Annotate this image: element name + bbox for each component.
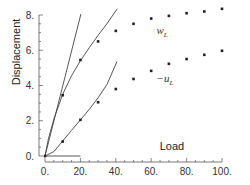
data-point-minus-u-l: [203, 54, 206, 57]
series-label-w-l: wL: [157, 24, 168, 39]
data-point-w-l: [79, 59, 82, 62]
displacement-load-chart: 0.20.40.60.80.100.0.2.4.6.8. wL−uL Load …: [0, 0, 250, 185]
data-point-w-l: [203, 10, 206, 13]
data-point-minus-u-l: [61, 140, 64, 143]
data-point-w-l: [132, 23, 135, 26]
y-axis-title: Displacement: [10, 19, 22, 86]
series-label-subscript: L: [168, 79, 173, 87]
x-tick-label: 0.: [41, 166, 49, 177]
x-tick-label: 100.: [212, 166, 231, 177]
data-point-minus-u-l: [221, 49, 224, 52]
origin-point: [44, 155, 47, 158]
data-points: [44, 8, 224, 158]
data-point-minus-u-l: [168, 63, 171, 66]
x-tick-label: 20.: [73, 166, 87, 177]
x-tick-label: 80.: [180, 166, 194, 177]
data-point-w-l: [168, 15, 171, 18]
series-labels: wL−uL: [157, 24, 174, 87]
data-point-minus-u-l: [185, 58, 188, 61]
data-point-minus-u-l: [115, 88, 118, 91]
u-asymptotic-curve: [45, 62, 117, 157]
axes: 0.20.40.60.80.100.0.2.4.6.8.: [26, 10, 232, 178]
data-point-minus-u-l: [132, 78, 135, 81]
data-point-w-l: [185, 12, 188, 15]
data-point-minus-u-l: [150, 70, 153, 73]
data-point-minus-u-l: [79, 119, 82, 122]
x-tick-label: 60.: [144, 166, 158, 177]
data-point-minus-u-l: [97, 101, 100, 104]
x-axis-title: Load: [160, 140, 184, 152]
reference-lines: [45, 9, 117, 156]
y-tick-label: 4.: [26, 80, 34, 91]
y-tick-label: 8.: [26, 10, 34, 21]
y-tick-label: 0.: [26, 151, 34, 162]
y-tick-label: 6.: [26, 45, 34, 56]
data-point-w-l: [150, 17, 153, 20]
initial-slope-line: [45, 14, 81, 156]
data-point-w-l: [97, 40, 100, 43]
data-point-w-l: [221, 8, 224, 11]
data-point-w-l: [61, 94, 64, 97]
data-point-w-l: [115, 30, 118, 33]
y-tick-label: 2.: [26, 115, 34, 126]
series-label-subscript: L: [163, 31, 168, 39]
series-label-minus-u-l: −uL: [157, 72, 174, 87]
series-label-main: −u: [157, 72, 170, 84]
w-asymptotic-curve: [45, 9, 117, 156]
x-tick-label: 40.: [109, 166, 123, 177]
